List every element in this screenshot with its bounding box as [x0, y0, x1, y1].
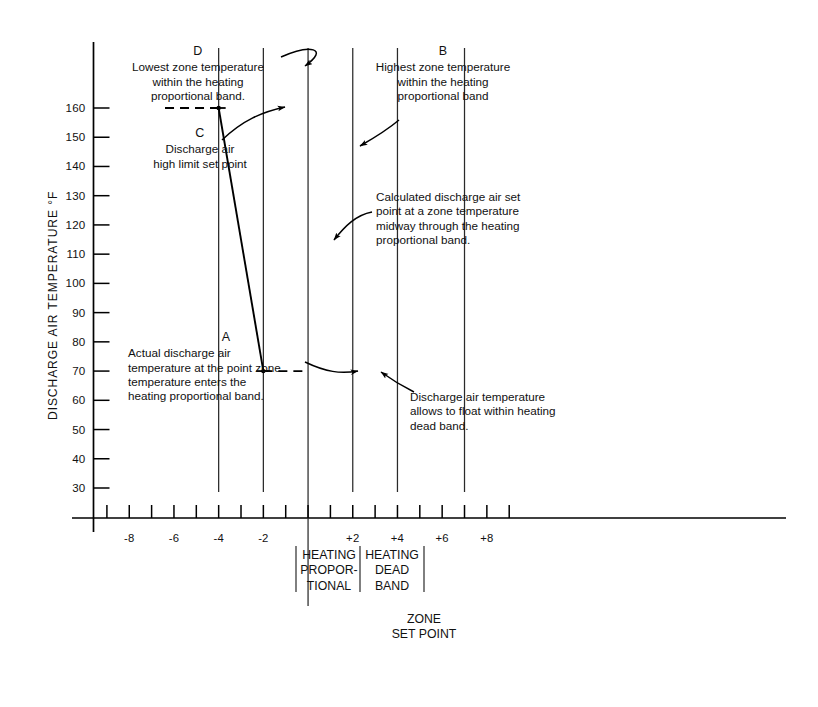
chart-canvas: DISCHARGE AIR TEMPERATURE °F 30405060708… [0, 0, 818, 707]
y-tick-label-140: 140 [48, 159, 86, 172]
band-hd-line3: BAND [363, 579, 421, 594]
annotation-d: D Lowest zone temperature within the hea… [108, 44, 288, 103]
annotation-d-line2: within the heating [108, 75, 288, 89]
annotation-b-line2: within the heating [348, 75, 538, 89]
annotation-c: C Discharge air high limit set point [125, 126, 275, 171]
leader-b [360, 120, 399, 146]
annotation-calc-line1: Calculated discharge air set [376, 190, 576, 204]
y-tick-label-40: 40 [48, 452, 86, 465]
band-hp-line3: TIONAL [300, 579, 358, 594]
chart-svg [0, 0, 818, 707]
zone-set-point-label: ZONE SET POINT [376, 612, 472, 643]
y-tick-label-90: 90 [48, 306, 86, 319]
y-tick-marks [94, 108, 110, 488]
annotation-d-line1: Lowest zone temperature [108, 60, 288, 74]
y-tick-label-100: 100 [48, 276, 86, 289]
axis-group [72, 42, 786, 532]
y-tick-label-110: 110 [48, 247, 86, 260]
annotation-float-line1: Discharge air temperature [410, 390, 596, 404]
x-tick-label-plus8: +8 [467, 532, 507, 544]
y-tick-label-50: 50 [48, 423, 86, 436]
x-tick-label-minus8: -8 [109, 532, 149, 544]
x-tick-label-minus4: -4 [199, 532, 239, 544]
annotation-d-letter: D [108, 44, 288, 59]
annotation-b-letter: B [348, 44, 538, 59]
x-tick-label-minus2: -2 [243, 532, 283, 544]
x-tick-label-plus6: +6 [422, 532, 462, 544]
band-hp-line1: HEATING [300, 548, 358, 563]
annotation-a-line3: temperature enters the [128, 375, 324, 389]
x-tick-label-minus6: -6 [154, 532, 194, 544]
x-tick-label-plus4: +4 [377, 532, 417, 544]
annotation-calc-line3: midway through the heating [376, 219, 576, 233]
annotation-c-line2: high limit set point [125, 157, 275, 171]
annotation-a-letter: A [128, 330, 324, 345]
x-tick-marks [107, 505, 509, 518]
y-tick-label-120: 120 [48, 218, 86, 231]
annotation-calc-line2: point at a zone temperature [376, 204, 576, 218]
annotation-a-line1: Actual discharge air [128, 346, 324, 360]
annotation-a: A Actual discharge air temperature at th… [128, 330, 324, 403]
y-tick-label-160: 160 [48, 101, 86, 114]
annotation-a-line4: heating proportional band. [128, 389, 324, 403]
y-tick-label-30: 30 [48, 481, 86, 494]
zone-line1: ZONE [376, 612, 472, 627]
y-tick-label-70: 70 [48, 364, 86, 377]
annotation-a-line2: temperature at the point zone [128, 361, 324, 375]
annotation-float-line3: dead band. [410, 419, 596, 433]
y-tick-label-130: 130 [48, 189, 86, 202]
annotation-float-line2: allows to float within heating [410, 404, 596, 418]
band-hd-line2: DEAD [363, 563, 421, 578]
annotation-b: B Highest zone temperature within the he… [348, 44, 538, 103]
annotation-calc-line4: proportional band. [376, 233, 576, 247]
band-label-heating-dead-band: HEATING DEAD BAND [363, 548, 421, 594]
band-label-heating-proportional: HEATING PROPOR- TIONAL [300, 548, 358, 594]
y-tick-label-150: 150 [48, 130, 86, 143]
zone-line2: SET POINT [376, 627, 472, 642]
annotation-c-line1: Discharge air [125, 142, 275, 156]
annotation-dead-band-float: Discharge air temperature allows to floa… [410, 390, 596, 433]
y-tick-label-60: 60 [48, 393, 86, 406]
annotation-d-line3: proportional band. [108, 89, 288, 103]
band-hp-line2: PROPOR- [300, 563, 358, 578]
x-tick-label-plus2: +2 [333, 532, 373, 544]
annotation-c-letter: C [125, 126, 275, 141]
annotation-b-line1: Highest zone temperature [348, 60, 538, 74]
y-tick-label-80: 80 [48, 335, 86, 348]
band-hd-line1: HEATING [363, 548, 421, 563]
annotation-b-line3: proportional band [348, 89, 538, 103]
annotation-calculated-setpoint: Calculated discharge air set point at a … [376, 190, 576, 247]
